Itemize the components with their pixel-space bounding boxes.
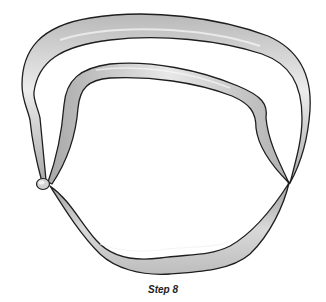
- step-caption: Step 8: [0, 284, 326, 295]
- balloon-illustration: [0, 0, 326, 282]
- inner-loop-balloon: [48, 63, 289, 184]
- twist-pinch-point: [288, 182, 291, 185]
- balloon-knot: [37, 179, 50, 190]
- bottom-balloon: [50, 183, 289, 274]
